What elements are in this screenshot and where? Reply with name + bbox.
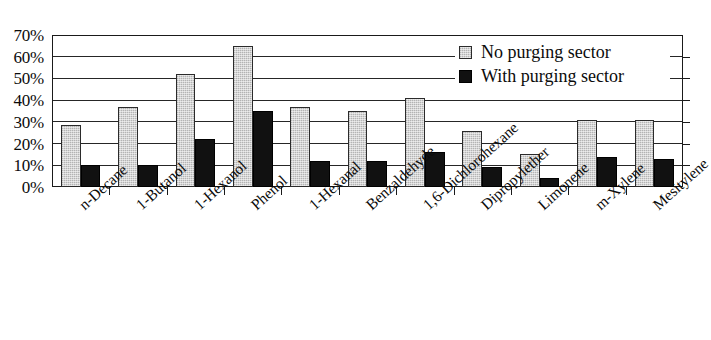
y-axis-tick-right bbox=[683, 100, 690, 101]
legend-label: With purging sector bbox=[481, 67, 624, 86]
legend-item-1: With purging sector bbox=[459, 64, 668, 88]
y-axis-tick-label: 20% bbox=[13, 135, 44, 152]
bar-group bbox=[118, 35, 158, 187]
bar-group bbox=[61, 35, 101, 187]
y-axis-tick-label: 10% bbox=[13, 157, 44, 174]
bar-group bbox=[290, 35, 330, 187]
bar bbox=[61, 125, 81, 187]
legend-label: No purging sector bbox=[481, 43, 611, 62]
y-axis-tick-right bbox=[683, 122, 690, 123]
y-axis-tick-label: 50% bbox=[13, 70, 44, 87]
legend-item-0: No purging sector bbox=[459, 40, 668, 64]
y-axis-tick-right bbox=[683, 57, 690, 58]
x-axis-labels: n-Decane1-Butanol1-HexanolPhenol1-Hexana… bbox=[0, 187, 708, 340]
y-axis-tick-label: 60% bbox=[13, 48, 44, 65]
bar bbox=[253, 111, 273, 187]
y-axis-tick-label: 40% bbox=[13, 92, 44, 109]
y-axis-tick-right bbox=[683, 78, 690, 79]
bar bbox=[290, 107, 310, 187]
y-axis-tick-right bbox=[683, 165, 690, 166]
legend-swatch-black-square-icon bbox=[459, 70, 472, 83]
y-axis-tick-label: 70% bbox=[13, 27, 44, 44]
y-axis-tick-label: 30% bbox=[13, 113, 44, 130]
chart-legend: No purging sector With purging sector bbox=[455, 36, 670, 92]
y-axis-tick-right bbox=[683, 144, 690, 145]
legend-swatch-light-gray-square-icon bbox=[459, 46, 472, 59]
